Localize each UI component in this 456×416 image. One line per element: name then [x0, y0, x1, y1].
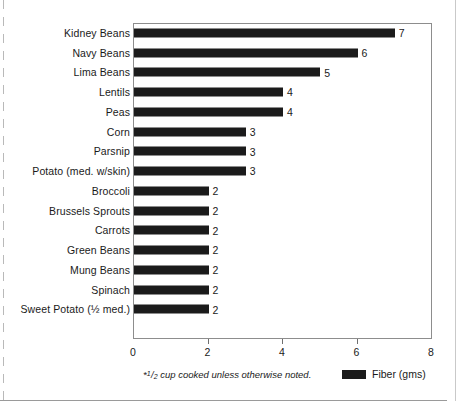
bar-with-value: 7 [134, 28, 405, 37]
legend-label-fiber: Fiber (gms) [372, 368, 426, 380]
bar [134, 246, 209, 255]
bar-with-value: 2 [134, 305, 218, 314]
bar-value-label: 3 [250, 166, 256, 177]
category-label: Carrots [95, 224, 130, 236]
bar-value-label: 4 [287, 107, 293, 118]
bar-value-label: 2 [213, 245, 219, 256]
bar [134, 107, 283, 116]
x-axis-tick-label: 2 [205, 346, 211, 358]
bar [134, 28, 395, 37]
bar-row: Carrots2 [0, 221, 456, 241]
bar [134, 127, 246, 136]
bar-row: Broccoli2 [0, 181, 456, 201]
category-label: Lima Beans [74, 66, 130, 78]
x-axis-tick-label: 8 [428, 346, 434, 358]
bar-row: Parsnip3 [0, 142, 456, 162]
bar [134, 147, 246, 156]
bar-with-value: 4 [134, 107, 293, 116]
bar-value-label: 2 [213, 284, 219, 295]
bar-value-label: 5 [324, 67, 330, 78]
bar [134, 265, 209, 274]
bar [134, 206, 209, 215]
x-axis-tick-label: 4 [279, 346, 285, 358]
category-label: Sweet Potato (½ med.) [21, 303, 130, 315]
bar-with-value: 2 [134, 285, 218, 294]
bar [134, 68, 320, 77]
bar-value-label: 2 [213, 225, 219, 236]
bar-row: Lentils4 [0, 82, 456, 102]
bar-with-value: 2 [134, 226, 218, 235]
category-label: Parsnip [94, 145, 130, 157]
bar-with-value: 2 [134, 265, 218, 274]
bar-with-value: 4 [134, 88, 293, 97]
bar-with-value: 5 [134, 68, 330, 77]
bar-with-value: 2 [134, 246, 218, 255]
bar-row: Navy Beans6 [0, 43, 456, 63]
footnote-fraction-numerator: 1 [147, 370, 151, 377]
x-axis: 02468 [133, 339, 432, 365]
bar [134, 305, 209, 314]
bar-value-label: 6 [362, 47, 368, 58]
bar-value-label: 2 [213, 186, 219, 197]
bar-value-label: 3 [250, 146, 256, 157]
bar [134, 186, 209, 195]
bar-value-label: 2 [213, 265, 219, 276]
category-label: Navy Beans [72, 47, 130, 59]
bar-row: Sweet Potato (½ med.)2 [0, 300, 456, 320]
x-axis-tick [357, 339, 358, 344]
bar-rows-container: Kidney Beans7Navy Beans6Lima Beans5Lenti… [0, 23, 456, 339]
category-label: Corn [107, 126, 130, 138]
category-label: Broccoli [92, 185, 130, 197]
bar-value-label: 3 [250, 126, 256, 137]
bar-value-label: 2 [213, 205, 219, 216]
bar-value-label: 7 [399, 28, 405, 39]
bar [134, 48, 358, 57]
bar-row: Kidney Beans7 [0, 23, 456, 43]
category-label: Peas [106, 106, 130, 118]
category-label: Green Beans [67, 244, 130, 256]
category-label: Mung Beans [70, 264, 130, 276]
x-axis-tick-label: 0 [130, 346, 136, 358]
category-label: Potato (med. w/skin) [32, 165, 130, 177]
bar-with-value: 3 [134, 127, 256, 136]
bar-value-label: 2 [213, 304, 219, 315]
bar-row: Mung Beans2 [0, 260, 456, 280]
bar-row: Potato (med. w/skin)3 [0, 161, 456, 181]
bar [134, 226, 209, 235]
category-label: Spinach [91, 284, 130, 296]
bar-row: Lima Beans5 [0, 63, 456, 83]
bar-row: Corn3 [0, 122, 456, 142]
bar [134, 88, 283, 97]
footnote-fraction-denominator: 2 [154, 373, 158, 380]
category-label: Lentils [99, 86, 130, 98]
x-axis-tick [208, 339, 209, 344]
bar-with-value: 2 [134, 206, 218, 215]
category-label: Brussels Sprouts [49, 205, 130, 217]
bar [134, 285, 209, 294]
bar-row: Spinach2 [0, 280, 456, 300]
bar-with-value: 3 [134, 147, 256, 156]
bar-with-value: 3 [134, 167, 256, 176]
footnote-fraction: 1/2 [147, 369, 158, 380]
x-axis-tick [282, 339, 283, 344]
bar-with-value: 6 [134, 48, 367, 57]
legend: Fiber (gms) [342, 368, 426, 380]
bar [134, 167, 246, 176]
fiber-bar-chart: Kidney Beans7Navy Beans6Lima Beans5Lenti… [0, 0, 456, 416]
bar-row: Peas4 [0, 102, 456, 122]
bar-row: Green Beans2 [0, 240, 456, 260]
bar-row: Brussels Sprouts2 [0, 201, 456, 221]
legend-swatch-fiber [342, 370, 366, 379]
bar-with-value: 2 [134, 186, 218, 195]
category-label: Kidney Beans [64, 27, 130, 39]
bar-value-label: 4 [287, 87, 293, 98]
x-axis-tick-label: 6 [354, 346, 360, 358]
footnote: *1/2cup cooked unless otherwise noted. [143, 369, 311, 380]
footnote-text: cup cooked unless otherwise noted. [160, 369, 311, 380]
